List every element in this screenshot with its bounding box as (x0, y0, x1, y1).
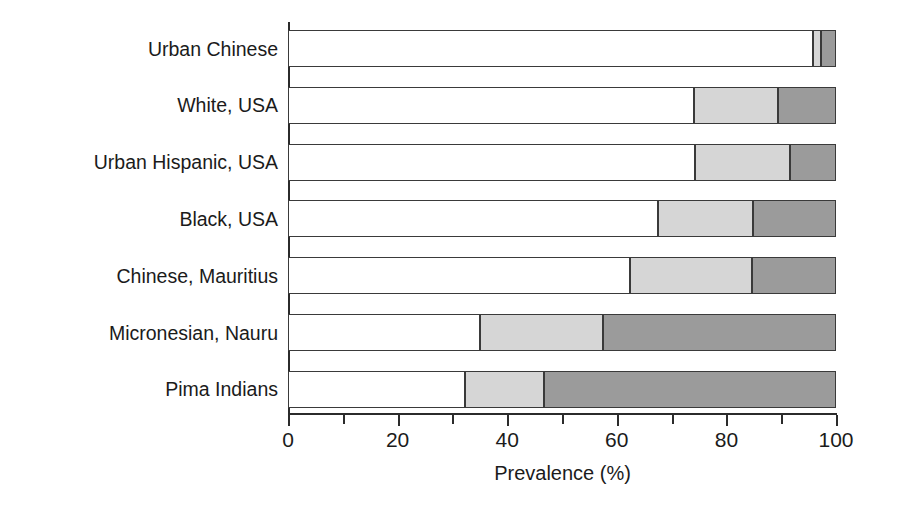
bar-row (288, 371, 836, 408)
bar-segment (480, 314, 603, 351)
bar-segment (753, 200, 836, 237)
bar-segment (778, 87, 836, 124)
x-axis-title: Prevalence (%) (288, 462, 837, 485)
y-axis-category-label: Micronesian, Nauru (0, 323, 278, 343)
bar-row (288, 87, 836, 124)
bar-segment (790, 144, 836, 181)
bar-segment (288, 257, 630, 294)
bar-segment (752, 257, 836, 294)
bar-segment (465, 371, 544, 408)
x-axis-tick-label: 0 (258, 428, 318, 452)
bar-segment (544, 371, 836, 408)
y-axis-category-label: Chinese, Mauritius (0, 266, 278, 286)
x-axis-tick (726, 415, 728, 426)
x-axis-tick (672, 415, 674, 424)
bar-row (288, 314, 836, 351)
bar-row (288, 257, 836, 294)
x-axis-tick (562, 415, 564, 424)
x-axis-tick (288, 415, 290, 426)
x-axis-tick (617, 415, 619, 426)
bar-segment (658, 200, 753, 237)
x-axis-tick (781, 415, 783, 424)
x-axis-tick (398, 415, 400, 426)
bar-segment (288, 87, 694, 124)
bar-row (288, 30, 836, 67)
x-axis-tick-label: 80 (696, 428, 756, 452)
bar-segment (694, 87, 778, 124)
x-axis-tick (343, 415, 345, 424)
y-axis-category-label: Pima Indians (0, 379, 278, 399)
x-axis-tick-label: 40 (477, 428, 537, 452)
bar-segment (821, 30, 836, 67)
x-axis-tick (452, 415, 454, 424)
prevalence-stacked-bar-chart: Urban ChineseWhite, USAUrban Hispanic, U… (0, 0, 904, 519)
bar-segment (288, 371, 465, 408)
bar-segment (695, 144, 790, 181)
bar-segment (288, 314, 480, 351)
x-axis-tick (507, 415, 509, 426)
y-axis-category-label: Urban Hispanic, USA (0, 152, 278, 172)
plot-area (288, 22, 836, 414)
y-axis-category-label: Black, USA (0, 209, 278, 229)
bar-segment (288, 30, 813, 67)
bar-segment (288, 200, 658, 237)
bar-row (288, 200, 836, 237)
bar-segment (813, 30, 821, 67)
y-axis-category-labels: Urban ChineseWhite, USAUrban Hispanic, U… (0, 22, 278, 414)
x-axis-tick-label: 100 (806, 428, 866, 452)
bar-segment (288, 144, 695, 181)
bar-row (288, 144, 836, 181)
bar-segment (603, 314, 836, 351)
x-axis-tick-label: 60 (587, 428, 647, 452)
x-axis-tick (836, 415, 838, 426)
y-axis-category-label: Urban Chinese (0, 39, 278, 59)
x-axis-tick-label: 20 (368, 428, 428, 452)
bar-segment (630, 257, 752, 294)
y-axis-category-label: White, USA (0, 95, 278, 115)
